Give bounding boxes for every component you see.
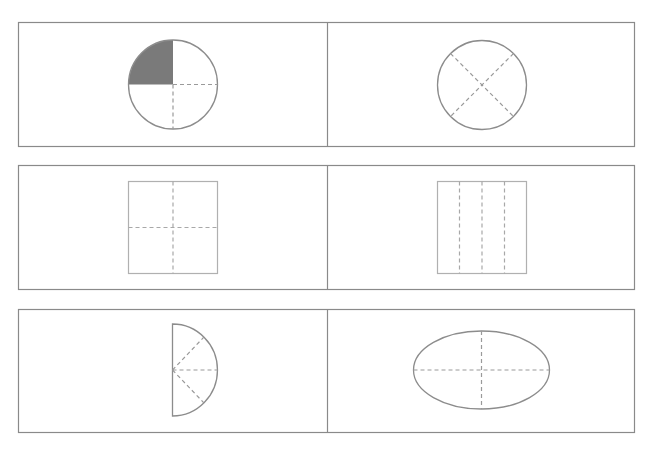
- square-four-strips: [438, 182, 527, 274]
- ellipse-four-parts: [414, 331, 550, 409]
- circle-x-divided: [438, 41, 527, 130]
- semicircle-four-sectors: [173, 324, 218, 416]
- square-four-quarters: [129, 182, 218, 274]
- fraction-shapes-diagram: [0, 0, 667, 458]
- dashed-radius: [173, 337, 205, 370]
- row-1-frame: [19, 23, 635, 147]
- row-3-frame: [19, 310, 635, 433]
- panel-frames: [19, 23, 635, 433]
- circle-quarter-shaded: [129, 40, 218, 129]
- dashed-radius: [173, 370, 205, 403]
- dashed-diagonal: [451, 54, 514, 117]
- row-2-frame: [19, 166, 635, 290]
